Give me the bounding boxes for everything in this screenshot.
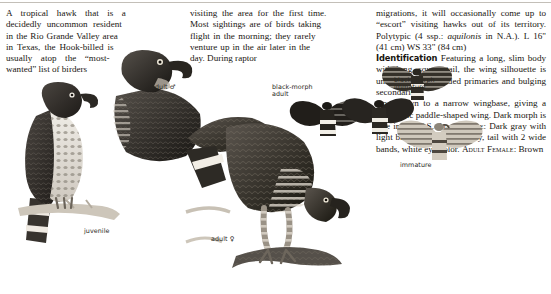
label-juvenile: juvenile (84, 228, 109, 235)
label-black-morph-adult: black-morph adult (272, 84, 313, 99)
field-guide-page: A tropical hawk that is a decidedly unco… (0, 0, 551, 294)
label-adult-female: adult ♀ (211, 236, 234, 243)
identification-body-4: : Brown (514, 144, 544, 154)
text-column-2: visiting the area for the first time. Mo… (190, 8, 362, 66)
label-black-morph-immature: black-morph immature (394, 77, 435, 92)
top-divider-rule (0, 2, 551, 3)
label-adult-male: adult ♂ (151, 84, 175, 91)
scientific-subspecies-name: aquilonis (447, 31, 481, 41)
description-paragraph: migrations, it will occasionally come up… (376, 8, 546, 53)
label-immature: immature (400, 162, 432, 169)
